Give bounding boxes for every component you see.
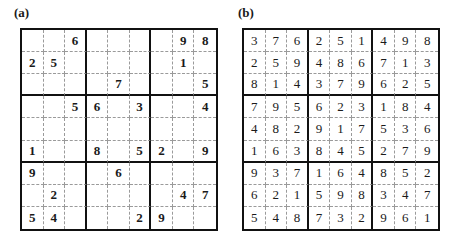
sudoku-cell: 1 — [287, 185, 309, 207]
sudoku-cell: 2 — [395, 74, 417, 96]
sudoku-cell: 2 — [330, 96, 352, 118]
sudoku-cell: 2 — [44, 185, 66, 207]
sudoku-cell: 5 — [22, 207, 44, 229]
sudoku-cell: 7 — [194, 185, 216, 207]
sudoku-cell — [108, 185, 130, 207]
sudoku-cell: 3 — [309, 74, 331, 96]
sudoku-cell: 9 — [330, 185, 352, 207]
sudoku-cell: 8 — [416, 30, 438, 52]
sudoku-cell — [22, 118, 44, 140]
sudoku-cell: 9 — [194, 141, 216, 163]
sudoku-cell: 7 — [352, 118, 374, 140]
sudoku-cell: 5 — [352, 141, 374, 163]
sudoku-cell: 4 — [309, 52, 331, 74]
sudoku-cell: 4 — [194, 96, 216, 118]
sudoku-cell: 2 — [266, 185, 288, 207]
sudoku-cell: 2 — [130, 207, 152, 229]
sudoku-cell: 8 — [244, 74, 266, 96]
sudoku-cell — [108, 52, 130, 74]
sudoku-cell: 5 — [309, 185, 331, 207]
sudoku-cell — [65, 52, 87, 74]
sudoku-cell: 7 — [330, 74, 352, 96]
sudoku-solution-grid: 3762514982594867138143796257956231844829… — [242, 28, 440, 231]
sudoku-cell — [151, 30, 173, 52]
sudoku-cell: 1 — [266, 74, 288, 96]
sudoku-cell: 2 — [287, 118, 309, 140]
sudoku-cell — [22, 185, 44, 207]
sudoku-cell — [22, 30, 44, 52]
sudoku-cell — [87, 163, 109, 185]
sudoku-cell — [44, 118, 66, 140]
sudoku-cell: 8 — [287, 207, 309, 229]
sudoku-cell: 6 — [87, 96, 109, 118]
sudoku-cell: 9 — [287, 52, 309, 74]
sudoku-cell — [130, 185, 152, 207]
sudoku-cell: 2 — [22, 52, 44, 74]
sudoku-cell: 7 — [287, 163, 309, 185]
sudoku-cell: 6 — [287, 30, 309, 52]
sudoku-cell — [87, 118, 109, 140]
sudoku-cell: 8 — [330, 52, 352, 74]
sudoku-cell — [173, 96, 195, 118]
sudoku-cell: 9 — [309, 118, 331, 140]
sudoku-cell: 5 — [44, 52, 66, 74]
sudoku-cell: 5 — [65, 96, 87, 118]
sudoku-cell: 2 — [309, 30, 331, 52]
sudoku-cell: 5 — [416, 74, 438, 96]
sudoku-cell: 9 — [266, 96, 288, 118]
sudoku-cell — [65, 163, 87, 185]
sudoku-cell — [87, 52, 109, 74]
sudoku-cell: 7 — [395, 141, 417, 163]
sudoku-cell: 1 — [330, 118, 352, 140]
sudoku-cell — [173, 207, 195, 229]
sudoku-cell: 5 — [194, 74, 216, 96]
sudoku-cell: 6 — [373, 74, 395, 96]
sudoku-cell: 6 — [309, 96, 331, 118]
sudoku-cell — [130, 74, 152, 96]
sudoku-cell: 3 — [373, 185, 395, 207]
sudoku-cell: 4 — [44, 207, 66, 229]
sudoku-cell: 6 — [352, 52, 374, 74]
sudoku-cell — [65, 207, 87, 229]
sudoku-cell: 6 — [244, 185, 266, 207]
sudoku-cell — [87, 30, 109, 52]
sudoku-cell — [65, 185, 87, 207]
sudoku-cell: 7 — [309, 207, 331, 229]
sudoku-cell: 3 — [287, 141, 309, 163]
sudoku-cell: 8 — [309, 141, 331, 163]
sudoku-cell: 2 — [352, 207, 374, 229]
sudoku-cell: 1 — [416, 207, 438, 229]
sudoku-cell: 6 — [108, 163, 130, 185]
sudoku-cell: 2 — [151, 141, 173, 163]
sudoku-cell — [44, 141, 66, 163]
sudoku-cell: 8 — [373, 163, 395, 185]
sudoku-cell — [65, 74, 87, 96]
sudoku-cell — [108, 141, 130, 163]
sudoku-cell: 9 — [22, 163, 44, 185]
sudoku-cell: 1 — [309, 163, 331, 185]
sudoku-cell: 5 — [130, 141, 152, 163]
sudoku-cell — [151, 74, 173, 96]
sudoku-cell: 6 — [416, 118, 438, 140]
sudoku-cell — [108, 207, 130, 229]
sudoku-cell — [173, 163, 195, 185]
sudoku-cell: 5 — [266, 52, 288, 74]
sudoku-cell — [44, 163, 66, 185]
sudoku-cell — [173, 74, 195, 96]
sudoku-cell: 1 — [244, 141, 266, 163]
sudoku-cell: 9 — [151, 207, 173, 229]
sudoku-cell: 6 — [65, 30, 87, 52]
sudoku-cell — [65, 118, 87, 140]
sudoku-cell — [44, 30, 66, 52]
sudoku-cell: 4 — [373, 30, 395, 52]
sudoku-cell — [151, 96, 173, 118]
sudoku-cell: 7 — [416, 185, 438, 207]
sudoku-cell — [87, 74, 109, 96]
sudoku-cell — [173, 118, 195, 140]
sudoku-cell: 3 — [244, 30, 266, 52]
sudoku-cell: 6 — [330, 163, 352, 185]
sudoku-cell: 6 — [395, 207, 417, 229]
sudoku-cell — [65, 141, 87, 163]
sudoku-cell — [173, 141, 195, 163]
sudoku-cell: 4 — [266, 207, 288, 229]
